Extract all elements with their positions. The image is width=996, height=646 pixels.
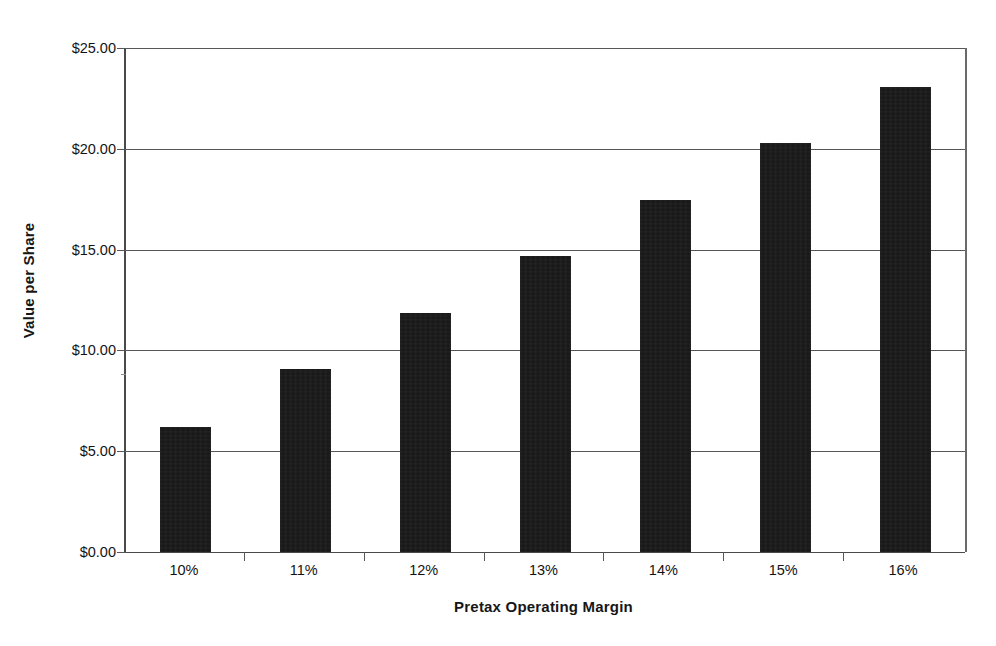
x-axis-tick-label: 11%: [290, 562, 318, 578]
x-axis-tick-mark: [843, 552, 844, 561]
bar: [400, 313, 451, 552]
plot-area: [124, 48, 967, 552]
x-axis-tick-mark: [603, 552, 604, 561]
y-axis-tick-label: $15.00: [40, 242, 116, 258]
y-axis-title-label: Value per Share: [21, 222, 38, 338]
bar: [520, 256, 571, 552]
bar: [760, 143, 811, 552]
x-axis-tick-label: 10%: [169, 562, 198, 578]
y-axis-tick-mark: [117, 149, 126, 150]
y-axis-tick-labels: $0.00$5.00$10.00$15.00$20.00$25.00: [40, 0, 116, 646]
y-axis-tick-label: $20.00: [40, 141, 116, 157]
bars-layer: [126, 48, 965, 552]
x-axis-tick-marks: [124, 552, 963, 562]
x-axis-tick-labels: 10%11%12%13%14%15%16%: [124, 562, 963, 592]
y-axis-tick-label: $10.00: [40, 342, 116, 358]
y-axis-tick-mark: [117, 250, 126, 251]
x-axis-title: Pretax Operating Margin: [124, 598, 963, 615]
bar-chart: Value per Share $0.00$5.00$10.00$15.00$2…: [0, 0, 996, 646]
x-axis-tick-label: 13%: [529, 562, 558, 578]
y-axis-tick-mark: [117, 451, 126, 452]
x-axis-tick-label: 16%: [889, 562, 918, 578]
bar: [640, 200, 691, 552]
x-axis-tick-label: 12%: [409, 562, 438, 578]
x-axis-tick-mark: [484, 552, 485, 561]
x-axis-tick-mark: [364, 552, 365, 561]
x-axis-tick-label: 14%: [649, 562, 678, 578]
y-axis-tick-label: $25.00: [40, 40, 116, 56]
x-axis-tick-mark: [723, 552, 724, 561]
x-axis-tick-label: 15%: [769, 562, 798, 578]
y-axis-tick-label: $0.00: [40, 544, 116, 560]
bar: [280, 369, 331, 552]
y-axis-tick-mark: [117, 48, 126, 49]
y-axis-tick-label: $5.00: [40, 443, 116, 459]
bar: [160, 427, 211, 552]
x-axis-tick-mark: [244, 552, 245, 561]
y-axis-tick-mark: [117, 350, 126, 351]
bar: [880, 87, 931, 552]
